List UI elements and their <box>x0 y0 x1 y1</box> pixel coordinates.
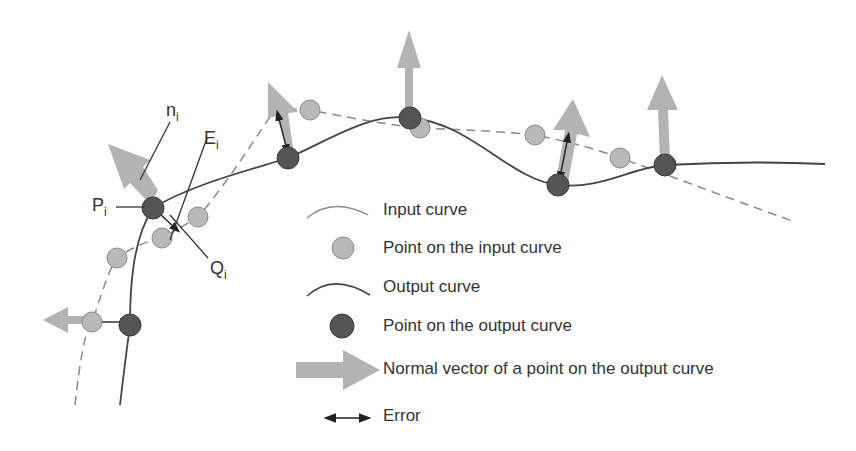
label-n: ni <box>166 100 179 124</box>
normal-arrow-3 <box>268 82 298 150</box>
label-p: Pi <box>92 195 107 219</box>
error-arrows <box>95 115 568 322</box>
normal-arrows <box>43 30 678 333</box>
normal-arrow-6 <box>647 75 678 160</box>
legend-error: Error <box>383 406 421 426</box>
normal-arrow-top <box>397 30 421 118</box>
legend-normal-vector: Normal vector of a point on the output c… <box>383 359 714 379</box>
legend-output-point: Point on the output curve <box>383 316 572 336</box>
curve-fitting-diagram <box>0 0 856 451</box>
legend-input-point: Point on the input curve <box>383 238 562 258</box>
normal-arrow-pi <box>108 144 158 204</box>
label-e: Ei <box>204 128 219 152</box>
legend-input-curve: Input curve <box>383 200 467 220</box>
legend-symbols <box>296 206 380 418</box>
input-points <box>82 100 630 332</box>
legend-output-curve: Output curve <box>383 277 480 297</box>
label-q: Qi <box>210 258 227 282</box>
